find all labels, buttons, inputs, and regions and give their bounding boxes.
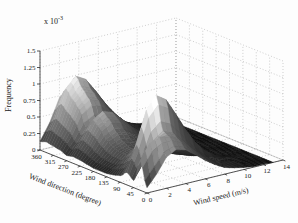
speed-tick-label: 0	[149, 196, 153, 204]
z-axis-exponent-label: x 10-3	[44, 15, 63, 26]
speed-tick-label: 12	[264, 167, 272, 175]
z-exponent-sup: -3	[58, 15, 63, 21]
z-tick-label: 0.5	[27, 113, 36, 121]
z-tick-label: 1.5	[27, 47, 36, 55]
direction-tick-label: 180	[85, 174, 96, 182]
wind-frequency-3d-surface-figure: 00.250.50.7511.251.536031527022518013590…	[0, 0, 298, 223]
direction-tick-label: 315	[45, 158, 56, 166]
z-axis-label: Frequency	[4, 60, 14, 130]
speed-tick-label: 6	[207, 181, 211, 189]
speed-tick-label: 2	[168, 191, 172, 199]
speed-tick-label: 10	[244, 172, 252, 180]
z-tick-label: 0.75	[23, 97, 36, 105]
z-tick-label: 1	[32, 80, 36, 88]
direction-tick-label: 225	[71, 169, 82, 177]
direction-tick-label: 0	[142, 196, 146, 204]
z-tick-label: 1.25	[23, 64, 36, 72]
direction-tick-label: 45	[127, 190, 135, 198]
z-exponent-base: x 10	[44, 17, 58, 26]
speed-tick-label: 8	[226, 177, 230, 185]
z-tick-label: 0.25	[23, 130, 36, 138]
direction-tick-label: 90	[113, 185, 121, 193]
direction-tick-label: 360	[31, 153, 42, 161]
speed-tick-label: 14	[283, 163, 291, 171]
speed-tick-label: 4	[188, 186, 192, 194]
direction-tick-label: 135	[98, 179, 109, 187]
direction-tick-label: 270	[58, 163, 69, 171]
